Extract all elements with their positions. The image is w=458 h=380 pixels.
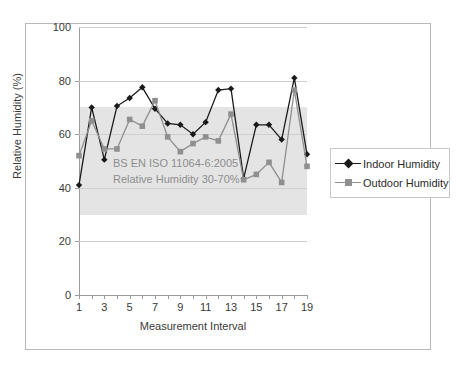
x-tick-mark [104, 295, 105, 299]
gridline [79, 134, 307, 135]
x-tick-mark [244, 295, 245, 299]
chart-legend: Indoor Humidity Outdoor Humidity [330, 148, 450, 198]
chart-container: 020406080100135791113151719 BS EN ISO 11… [0, 0, 458, 380]
x-tick-mark [231, 295, 232, 299]
x-tick-label: 3 [101, 301, 107, 313]
y-tick-mark [75, 134, 79, 135]
x-tick-mark [294, 295, 295, 299]
legend-label-outdoor: Outdoor Humidity [363, 177, 449, 189]
y-axis-title: Relative Humidity (%) [11, 46, 23, 206]
y-tick-label: 80 [39, 75, 71, 87]
x-tick-label: 9 [177, 301, 183, 313]
legend-label-indoor: Indoor Humidity [363, 158, 440, 170]
y-tick-label: 40 [39, 182, 71, 194]
y-tick-mark [75, 241, 79, 242]
x-tick-mark [180, 295, 181, 299]
x-tick-label: 5 [127, 301, 133, 313]
y-tick-mark [75, 81, 79, 82]
x-tick-label: 11 [200, 301, 211, 313]
gridline [79, 241, 307, 242]
x-tick-label: 19 [301, 301, 313, 313]
y-tick-label: 100 [39, 21, 71, 33]
gridline [79, 188, 307, 189]
x-tick-mark [282, 295, 283, 299]
x-tick-mark [92, 295, 93, 299]
legend-item-indoor: Indoor Humidity [335, 154, 445, 173]
gridline [79, 27, 307, 28]
annotation-range: Relative Humidity 30-70% [113, 173, 240, 185]
x-tick-mark [206, 295, 207, 299]
y-tick-label: 20 [39, 235, 71, 247]
legend-item-outdoor: Outdoor Humidity [335, 173, 445, 192]
x-tick-mark [307, 295, 308, 299]
x-tick-mark [168, 295, 169, 299]
x-tick-label: 17 [276, 301, 288, 313]
x-tick-mark [155, 295, 156, 299]
x-tick-label: 13 [225, 301, 237, 313]
y-axis-line [79, 27, 80, 296]
x-axis-title: Measurement Interval [79, 320, 307, 332]
x-tick-mark [218, 295, 219, 299]
annotation-standard: BS EN ISO 11064-6:2005 [113, 157, 238, 169]
gridline [79, 81, 307, 82]
y-tick-label: 0 [39, 289, 71, 301]
x-tick-label: 1 [76, 301, 82, 313]
y-tick-label: 60 [39, 128, 71, 140]
x-tick-mark [193, 295, 194, 299]
x-tick-label: 15 [250, 301, 262, 313]
x-tick-mark [269, 295, 270, 299]
legend-key-square-icon [335, 177, 361, 189]
x-tick-mark [142, 295, 143, 299]
x-tick-mark [79, 295, 80, 299]
y-tick-mark [75, 188, 79, 189]
x-tick-label: 7 [152, 301, 158, 313]
x-tick-mark [256, 295, 257, 299]
x-tick-mark [117, 295, 118, 299]
legend-key-diamond-icon [335, 158, 361, 170]
x-tick-mark [130, 295, 131, 299]
